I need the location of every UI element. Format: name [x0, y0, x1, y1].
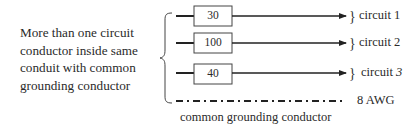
circuit-label-1: circuit 1	[359, 8, 400, 23]
circuit-brace-icon: }	[349, 36, 356, 51]
circuit-brace-icon: }	[349, 9, 356, 24]
grouping-brace-icon	[160, 13, 172, 103]
circuit-label-2: circuit 2	[359, 35, 400, 50]
circuit-label-3: circuit 3	[361, 65, 402, 80]
circuit-brace-icon: }	[349, 66, 356, 81]
circuit-label-prefix: circuit	[361, 65, 396, 79]
ground-caption: common grounding conductor	[180, 110, 331, 125]
conductor-rating-1: 30	[194, 9, 232, 21]
ground-size-label: 8 AWG	[357, 93, 395, 108]
conductor-rating-3: 40	[194, 67, 232, 79]
conductor-rating-2: 100	[194, 36, 232, 48]
circuit-label-number: 3	[396, 65, 402, 79]
